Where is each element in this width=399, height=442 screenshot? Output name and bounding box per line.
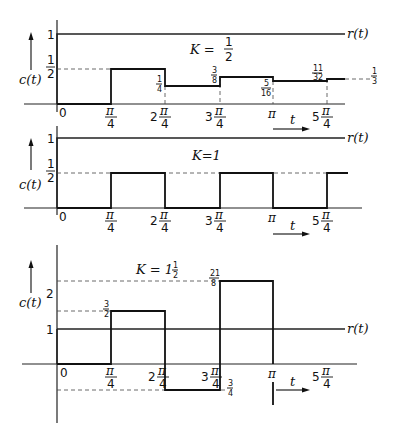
svg-text:2: 2 bbox=[46, 287, 54, 301]
svg-text:4: 4 bbox=[323, 377, 331, 391]
svg-text:4: 4 bbox=[107, 117, 115, 131]
svg-text:0: 0 bbox=[59, 106, 67, 120]
svg-text:16: 16 bbox=[261, 89, 271, 98]
reference-label: r(t) bbox=[347, 130, 369, 145]
gain-label: K=1 bbox=[191, 148, 221, 163]
svg-text:1: 1 bbox=[47, 157, 55, 171]
svg-text:t: t bbox=[290, 112, 296, 127]
svg-text:π: π bbox=[267, 107, 277, 121]
svg-text:2: 2 bbox=[104, 310, 109, 319]
arrow-head-icon bbox=[29, 32, 34, 40]
svg-text:4: 4 bbox=[323, 221, 331, 235]
svg-text:3: 3 bbox=[201, 370, 209, 384]
reference-label: r(t) bbox=[347, 321, 369, 336]
svg-text:π: π bbox=[157, 364, 167, 378]
svg-text:2: 2 bbox=[47, 171, 55, 185]
svg-text:π: π bbox=[159, 208, 169, 222]
svg-text:4: 4 bbox=[216, 221, 224, 235]
svg-text:0: 0 bbox=[60, 366, 68, 380]
svg-text:π: π bbox=[159, 104, 169, 118]
sampled-response-diagram: c(t) 1 1 2 r(t) K = 1 2 1 4 3 8 5 16 11 bbox=[0, 0, 399, 442]
y-tick-half-den: 2 bbox=[47, 67, 55, 81]
svg-text:π: π bbox=[267, 211, 277, 225]
svg-text:5: 5 bbox=[312, 110, 320, 124]
svg-text:4: 4 bbox=[161, 117, 169, 131]
svg-text:3: 3 bbox=[205, 214, 213, 228]
svg-text:3: 3 bbox=[228, 379, 233, 388]
svg-text:1: 1 bbox=[173, 261, 178, 270]
svg-text:π: π bbox=[321, 104, 331, 118]
svg-text:π: π bbox=[105, 208, 115, 222]
svg-text:4: 4 bbox=[107, 221, 115, 235]
svg-text:π: π bbox=[214, 208, 224, 222]
gain-label: K = 1 bbox=[135, 262, 173, 277]
svg-text:π: π bbox=[267, 367, 277, 381]
gain-label: K = bbox=[189, 42, 215, 57]
svg-text:4: 4 bbox=[157, 85, 162, 94]
svg-text:8: 8 bbox=[212, 76, 217, 85]
svg-text:1: 1 bbox=[372, 67, 377, 76]
y-axis-label: c(t) bbox=[19, 295, 42, 310]
svg-text:π: π bbox=[321, 208, 331, 222]
svg-text:1: 1 bbox=[157, 75, 162, 84]
svg-text:t: t bbox=[290, 374, 296, 389]
svg-text:0: 0 bbox=[59, 210, 67, 224]
svg-text:π: π bbox=[105, 104, 115, 118]
svg-text:4: 4 bbox=[323, 117, 331, 131]
svg-text:2: 2 bbox=[173, 271, 178, 280]
svg-text:1: 1 bbox=[225, 35, 233, 49]
reference-label: r(t) bbox=[347, 26, 369, 41]
svg-text:2: 2 bbox=[225, 50, 233, 64]
svg-text:4: 4 bbox=[107, 377, 115, 391]
svg-text:3: 3 bbox=[104, 300, 109, 309]
svg-text:32: 32 bbox=[313, 73, 323, 82]
panel-k-one: c(t) 1 1 2 r(t) K=1 0 π4 2π4 3π4 π 5π4 t bbox=[19, 126, 369, 237]
output-signal bbox=[57, 69, 345, 104]
panel-k-half: c(t) 1 1 2 r(t) K = 1 2 1 4 3 8 5 16 11 bbox=[19, 20, 377, 132]
svg-text:11: 11 bbox=[313, 64, 323, 73]
y-tick-half-num: 1 bbox=[47, 53, 55, 67]
panel-k-one-half: c(t) 2 1 r(t) K = 1 1 2 3 2 21 8 3 4 0 π… bbox=[19, 245, 369, 423]
svg-text:2: 2 bbox=[150, 110, 158, 124]
svg-text:2: 2 bbox=[150, 214, 158, 228]
svg-text:π: π bbox=[210, 364, 220, 378]
svg-text:4: 4 bbox=[216, 117, 224, 131]
svg-text:π: π bbox=[321, 364, 331, 378]
y-axis-label: c(t) bbox=[19, 177, 42, 192]
svg-text:4: 4 bbox=[159, 377, 167, 391]
arrow-head-icon bbox=[29, 138, 34, 146]
svg-text:t: t bbox=[290, 218, 296, 233]
y-tick-1: 1 bbox=[47, 28, 55, 42]
svg-text:3: 3 bbox=[205, 110, 213, 124]
svg-text:1: 1 bbox=[47, 132, 55, 146]
svg-text:5: 5 bbox=[312, 370, 320, 384]
output-signal bbox=[57, 173, 348, 208]
svg-text:1: 1 bbox=[46, 323, 54, 337]
svg-text:8: 8 bbox=[211, 279, 216, 288]
svg-text:5: 5 bbox=[264, 79, 269, 88]
svg-text:π: π bbox=[214, 104, 224, 118]
svg-text:3: 3 bbox=[212, 66, 217, 75]
svg-text:2: 2 bbox=[148, 370, 156, 384]
svg-text:3: 3 bbox=[372, 77, 377, 86]
svg-text:π: π bbox=[105, 364, 115, 378]
svg-text:21: 21 bbox=[210, 269, 220, 278]
arrow-head-icon bbox=[29, 260, 34, 268]
svg-text:4: 4 bbox=[161, 221, 169, 235]
svg-text:4: 4 bbox=[212, 377, 220, 391]
svg-text:4: 4 bbox=[228, 389, 233, 398]
svg-text:5: 5 bbox=[312, 214, 320, 228]
y-axis-label: c(t) bbox=[19, 72, 42, 87]
